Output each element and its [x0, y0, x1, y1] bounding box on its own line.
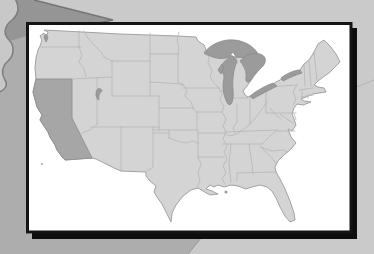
channel-island	[41, 163, 43, 165]
slide-graphic	[0, 0, 374, 254]
lake-pontchartrain	[225, 191, 228, 194]
slide-canvas	[0, 0, 374, 254]
